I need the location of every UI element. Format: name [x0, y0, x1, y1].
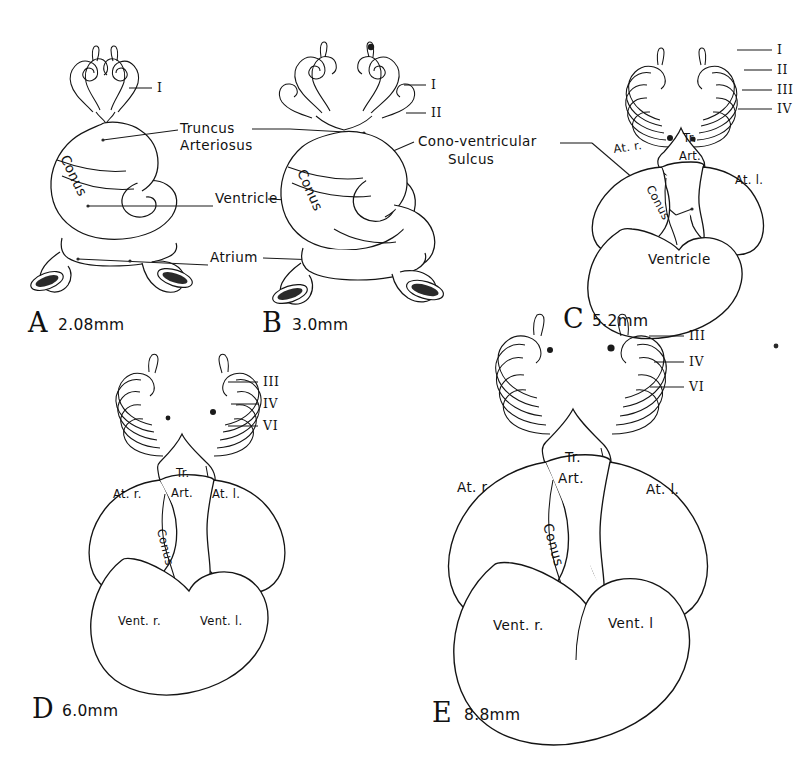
panel-d-atrium-right-label: At. r. [113, 487, 142, 501]
truncus-label-line1: Truncus [179, 120, 235, 136]
panel-e-size: 8.8mm [464, 706, 520, 724]
sulcus-label-line1: Cono-ventricular [418, 133, 537, 149]
heart-development-illustration: I Conus A 2.08mm Truncus Arteriosus Vent… [0, 0, 810, 770]
panel-a-arch-label-i: I [157, 80, 163, 95]
figure-plate: I Conus A 2.08mm Truncus Arteriosus Vent… [0, 0, 810, 770]
panel-b-letter: B [262, 307, 282, 338]
panel-e-ventricle-right-label: Vent. r. [493, 617, 544, 633]
panel-e-arch-label-vi: VI [688, 379, 704, 394]
panel-c-arch-label-iii: III [777, 82, 794, 97]
truncus-label-line2: Arteriosus [180, 137, 253, 153]
panel-c-arch-label-ii: II [777, 62, 788, 77]
panel-e-atrium-left-label: At. l. [646, 481, 679, 497]
panel-d-size: 6.0mm [62, 702, 118, 720]
panel-d-atrium-left-label: At. l. [212, 487, 240, 501]
panel-e-arch-label-iii: III [689, 328, 706, 343]
panel-d-ventricle-left-label: Vent. l. [200, 614, 242, 628]
panel-a-size: 2.08mm [58, 316, 125, 334]
panel-c-arteriosus-abbr: Art. [679, 149, 701, 163]
panel-d-ventricle-right-label: Vent. r. [118, 614, 161, 628]
panel-c-atrium-left-label: At. l. [735, 173, 763, 187]
panel-c-ventricle-label: Ventricle [648, 251, 711, 267]
panel-c-truncus-abbr: Tr. [682, 131, 697, 145]
panel-c-letter: C [563, 303, 584, 334]
ventricle-callout-label: Ventricle [215, 190, 278, 206]
panel-e-atrium-right-label: At. r [457, 479, 487, 495]
panel-e-letter: E [432, 697, 452, 728]
panel-a-letter: A [27, 307, 48, 338]
panel-d-arch-label-vi: VI [262, 418, 278, 433]
panel-b-size: 3.0mm [292, 316, 348, 334]
panel-c-arch-label-i: I [777, 42, 783, 57]
panel-d-truncus-abbr: Tr. [175, 466, 190, 480]
panel-c-arch-label-iv: IV [777, 101, 793, 116]
panel-d-arch-label-iii: III [263, 374, 280, 389]
panel-e-truncus-abbr: Tr. [564, 449, 581, 465]
ink-speck [774, 344, 779, 349]
panel-b-arch-label-i: I [431, 77, 437, 92]
panel-d-arch-label-iv: IV [263, 396, 279, 411]
panel-e-ventricle-left-label: Vent. l [608, 615, 653, 631]
panel-e-arch-label-iv: IV [689, 354, 705, 369]
panel-d-letter: D [32, 693, 54, 724]
panel-e-arteriosus-abbr: Art. [558, 470, 584, 486]
atrium-callout-label: Atrium [210, 249, 258, 265]
sulcus-label-line2: Sulcus [448, 151, 494, 167]
panel-b-arch-label-ii: II [431, 105, 442, 120]
panel-d-arteriosus-abbr: Art. [171, 486, 193, 500]
